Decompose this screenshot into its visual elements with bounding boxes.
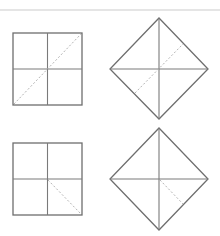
diamond-1 <box>110 18 208 119</box>
dashed-fold-line <box>48 180 81 214</box>
diamond-2 <box>110 128 208 230</box>
dashed-fold-line <box>160 180 183 204</box>
square-2 <box>13 143 82 215</box>
diagram-canvas <box>0 0 220 236</box>
square-1 <box>13 33 82 105</box>
